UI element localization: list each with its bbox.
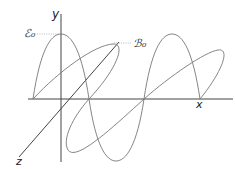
electric-amplitude-label: ℰ₀ bbox=[24, 27, 36, 40]
z-axis-label: z bbox=[15, 155, 22, 168]
y-axis-label: y bbox=[51, 7, 60, 21]
electric-field-wave bbox=[33, 34, 200, 161]
magnetic-amplitude-label: ℬ₀ bbox=[133, 37, 147, 50]
em-wave-diagram: y x z ℰ₀ ℬ₀ bbox=[0, 0, 235, 169]
x-axis-label: x bbox=[195, 98, 203, 111]
